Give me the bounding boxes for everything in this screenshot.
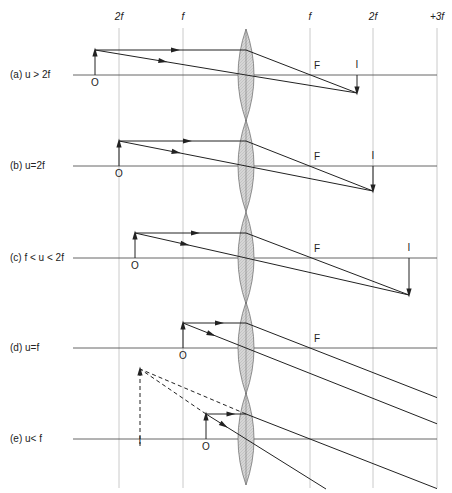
ray-arrow-icon [171,47,180,52]
tick-3f-right: +3f [430,11,445,22]
ray-arrow-icon [206,330,215,336]
case-label: (d) u=f [10,342,39,353]
object-label: O [131,260,139,271]
image-label: I [356,59,359,70]
header-ticks: 2f f f 2f +3f [114,11,445,22]
focus-label: F [314,60,320,71]
image-label: I [372,150,375,161]
ray-arrow-icon [132,231,137,240]
ray-arrow-icon [158,58,167,63]
case-label: (e) u< f [10,433,42,444]
focus-label: F [314,243,320,254]
ray-arrow-icon [183,138,192,143]
tick-f-left: f [182,11,186,22]
object-label: O [115,168,123,179]
ray-arrow-icon [219,421,228,428]
case-label: (a) u > 2f [10,69,51,80]
ray-arrow-icon [171,149,180,154]
image-label: I [139,435,142,446]
ray-arrow-icon [137,367,142,376]
ray-arrow-icon [116,139,121,148]
tick-2f-right: 2f [368,11,379,22]
object-label: O [202,441,210,452]
case-label: (b) u=2f [10,160,45,171]
ray-arrow-icon [227,411,236,416]
image-label: I [408,242,411,253]
ray-arrow-icon [215,320,224,325]
ray-arrow-icon [180,321,185,330]
focus-label: F [314,151,320,162]
ray-arrow-icon [370,185,375,194]
ray-diagram: 2f f f 2f +3f (a) u > 2fOIF(b) u=2fOIF(c… [0,0,452,493]
object-label: O [91,77,99,88]
focus-label: F [314,333,320,344]
ray-arrow-icon [191,230,200,235]
tick-2f-left: 2f [114,11,125,22]
ray-arrow-icon [406,289,411,298]
case-label: (c) f < u < 2f [10,252,64,263]
ray-arrow-icon [354,87,359,96]
object-label: O [179,350,187,361]
ray-arrow-icon [180,241,189,246]
tick-f-right: f [309,11,313,22]
ray-arrow-icon [92,48,97,57]
